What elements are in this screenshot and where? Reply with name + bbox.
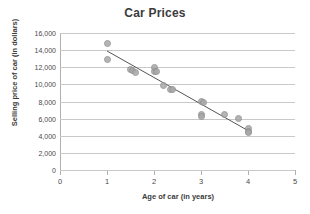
y-tick-label: 14,000: [12, 47, 56, 54]
x-tick-mark: [248, 171, 249, 175]
x-tick-mark: [107, 171, 108, 175]
x-tick-label: 2: [152, 177, 156, 186]
x-tick-label: 1: [105, 177, 109, 186]
y-tick-label: 6,000: [12, 115, 56, 122]
data-point: [132, 69, 139, 76]
data-point: [245, 129, 252, 136]
x-axis-title: Age of car (in years): [60, 192, 296, 201]
x-tick-label: 5: [293, 177, 297, 186]
data-point: [221, 111, 228, 118]
data-point: [198, 113, 205, 120]
x-tick-mark: [60, 171, 61, 175]
x-tick-label: 4: [246, 177, 250, 186]
data-point: [160, 82, 167, 89]
y-axis-tick-labels: 02,0004,0006,0008,00010,00012,00014,0001…: [8, 33, 56, 170]
y-tick-label: 12,000: [12, 64, 56, 71]
x-tick-label: 0: [58, 177, 62, 186]
trendline: [60, 33, 295, 170]
y-tick-label: 10,000: [12, 81, 56, 88]
x-tick-mark: [295, 171, 296, 175]
data-point: [104, 56, 111, 63]
data-point: [104, 40, 111, 47]
y-tick-label: 4,000: [12, 132, 56, 139]
x-tick-label: 3: [199, 177, 203, 186]
data-point: [235, 115, 242, 122]
chart-title: Car Prices: [0, 6, 310, 20]
car-prices-chart: Car Prices Selling price of car (in doll…: [0, 0, 310, 214]
x-tick-mark: [201, 171, 202, 175]
y-tick-label: 8,000: [12, 98, 56, 105]
y-tick-label: 2,000: [12, 149, 56, 156]
plot-area: [60, 33, 295, 170]
x-axis-ticks: 012345: [60, 171, 296, 191]
y-tick-label: 0: [12, 167, 56, 174]
x-tick-mark: [154, 171, 155, 175]
y-tick-label: 16,000: [12, 30, 56, 37]
